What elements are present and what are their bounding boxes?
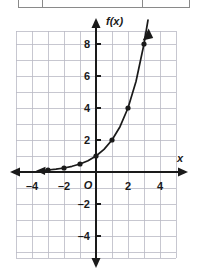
y-tick-label: 8	[84, 38, 90, 50]
axes	[14, 22, 184, 264]
x-axis-label: x	[176, 152, 184, 164]
data-point	[93, 153, 98, 158]
y-tick-label: –4	[78, 230, 91, 242]
y-axis-arrow-down	[92, 258, 101, 268]
graph-page: f(x) x O 8 6 4 2 –2 –4 –4 –2 2 4	[0, 0, 200, 272]
data-point	[45, 167, 50, 172]
y-tick-label: 6	[84, 70, 90, 82]
y-axis-arrow-up	[92, 18, 101, 28]
x-axis-arrow-right	[178, 168, 188, 177]
axis-arrowheads	[10, 18, 188, 268]
origin-label: O	[84, 179, 93, 191]
x-tick-label: 2	[125, 180, 131, 192]
coordinate-graph: f(x) x O 8 6 4 2 –2 –4 –4 –2 2 4	[0, 0, 200, 272]
y-axis-label: f(x)	[106, 15, 123, 27]
data-point	[77, 161, 82, 166]
y-tick-label: 2	[84, 134, 90, 146]
x-axis-arrow-left	[10, 168, 20, 177]
function-curve	[42, 20, 148, 171]
data-point	[109, 137, 114, 142]
data-point	[141, 41, 146, 46]
y-tick-label: 4	[84, 102, 91, 114]
y-tick-label: –2	[78, 198, 90, 210]
x-tick-label: –2	[58, 180, 70, 192]
curve-arrow-left	[36, 167, 46, 175]
x-tick-label: 4	[157, 180, 164, 192]
x-tick-label: –4	[26, 180, 39, 192]
data-point	[125, 105, 130, 110]
data-point	[61, 165, 66, 170]
